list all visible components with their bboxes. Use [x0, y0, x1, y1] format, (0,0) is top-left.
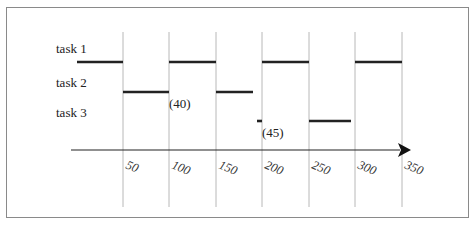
time-axis [71, 143, 411, 157]
tick-label-350: 350 [402, 157, 426, 178]
timeline-diagram: 50100150200250300350 task 1 task 2 task … [0, 0, 476, 226]
task-3-label: task 3 [56, 105, 87, 120]
gridlines [123, 32, 402, 207]
task-2-label: task 2 [56, 75, 87, 90]
tick-label-300: 300 [355, 157, 379, 178]
task-1-label: task 1 [56, 41, 87, 56]
annotation-40: (40) [169, 96, 191, 111]
tick-label-150: 150 [217, 158, 240, 178]
tick-label-50: 50 [124, 158, 142, 176]
tick-label-100: 100 [170, 158, 193, 178]
tick-label-250: 250 [310, 158, 333, 178]
tick-label-200: 200 [263, 158, 286, 178]
task-rows [77, 62, 402, 121]
annotation-45: (45) [262, 125, 284, 140]
